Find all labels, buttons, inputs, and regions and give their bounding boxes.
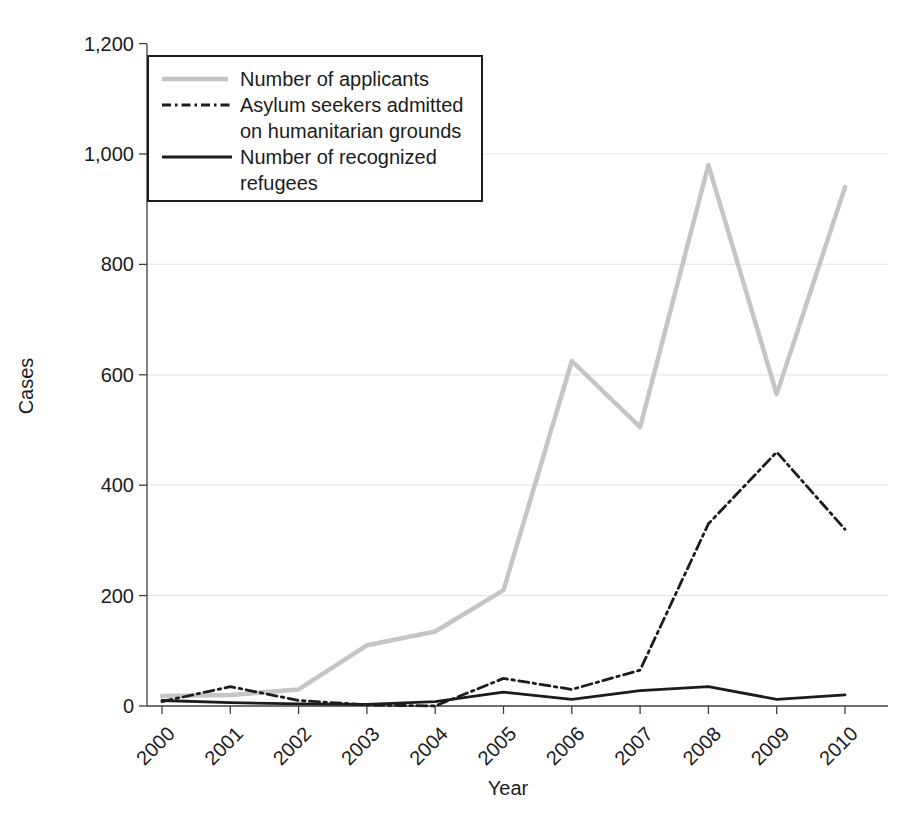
y-tick-label-600: 600 bbox=[101, 364, 134, 386]
x-tick-label-2008: 2008 bbox=[678, 722, 725, 769]
refugees-line-swatch bbox=[160, 144, 240, 170]
applicants-series-line bbox=[162, 165, 845, 696]
x-tick-label-2009: 2009 bbox=[747, 722, 794, 769]
legend-label-refugees: Number of recognized refugees bbox=[240, 144, 477, 196]
y-tick-label-1200: 1,200 bbox=[84, 33, 134, 55]
humanitarian-line-swatch bbox=[160, 92, 240, 118]
x-tick-label-2003: 2003 bbox=[337, 722, 384, 769]
asylum-cases-line-chart-figure: 02004006008001,0001,20020002001200220032… bbox=[0, 0, 917, 832]
x-tick-label-2005: 2005 bbox=[473, 722, 520, 769]
x-tick-label-2002: 2002 bbox=[268, 722, 315, 769]
y-tick-label-1000: 1,000 bbox=[84, 143, 134, 165]
y-axis-title: Cases bbox=[15, 358, 37, 415]
x-tick-label-2010: 2010 bbox=[815, 722, 862, 769]
dash-dot-line-icon bbox=[160, 92, 232, 118]
x-tick-label-2006: 2006 bbox=[542, 722, 589, 769]
solid-line-icon bbox=[160, 144, 232, 170]
refugees-series-line bbox=[162, 687, 845, 705]
legend: Number of applicants Asylum seekers admi… bbox=[147, 55, 483, 202]
humanitarian-series-line bbox=[162, 452, 845, 706]
y-tick-label-400: 400 bbox=[101, 474, 134, 496]
x-tick-label-2004: 2004 bbox=[405, 722, 452, 769]
applicants-line-swatch bbox=[160, 66, 240, 92]
legend-entry-applicants: Number of applicants bbox=[160, 66, 477, 92]
gray-line-icon bbox=[160, 66, 232, 92]
legend-label-humanitarian: Asylum seekers admitted on humanitarian … bbox=[240, 92, 477, 144]
legend-entry-humanitarian: Asylum seekers admitted on humanitarian … bbox=[160, 92, 477, 144]
x-tick-label-2001: 2001 bbox=[200, 722, 247, 769]
legend-entry-refugees: Number of recognized refugees bbox=[160, 144, 477, 196]
x-tick-label-2000: 2000 bbox=[132, 722, 179, 769]
y-tick-label-800: 800 bbox=[101, 253, 134, 275]
x-axis-title: Year bbox=[488, 777, 529, 799]
x-tick-label-2007: 2007 bbox=[610, 722, 657, 769]
y-tick-label-0: 0 bbox=[123, 695, 134, 717]
legend-label-applicants: Number of applicants bbox=[240, 66, 477, 92]
y-tick-label-200: 200 bbox=[101, 585, 134, 607]
